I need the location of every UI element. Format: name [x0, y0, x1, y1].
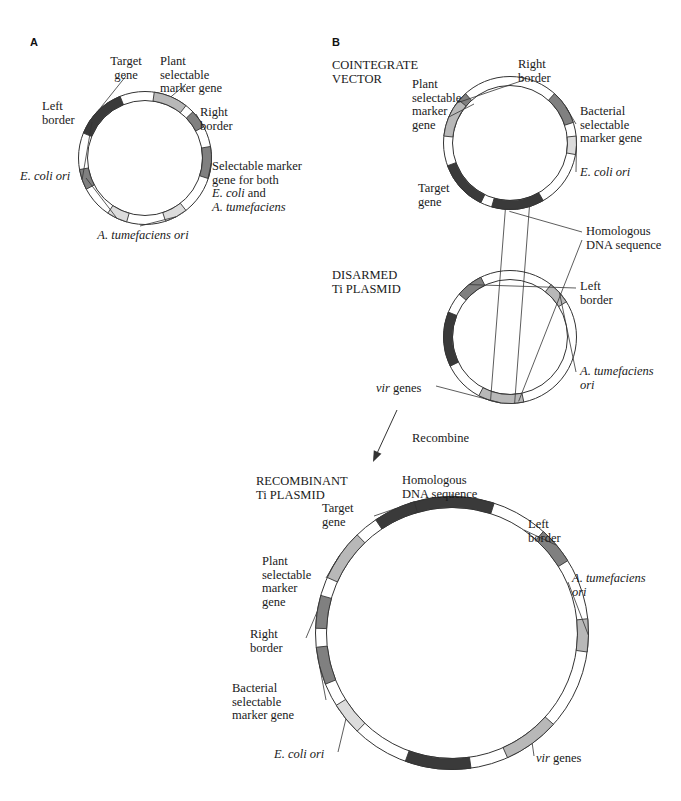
label-right-border: Rightborder — [518, 58, 574, 85]
label-bacterial-selectable-marker-gene: Bacterialselectablemarker gene — [580, 105, 670, 146]
label-right-border: Rightborder — [250, 628, 304, 655]
label-left-border: Leftborder — [580, 280, 632, 307]
label-left-border: Leftborder — [528, 518, 580, 545]
label-vir-genes: vir genes — [376, 382, 434, 396]
label-recombine: Recombine — [412, 432, 492, 446]
label-target-gene: Targetgene — [322, 502, 374, 529]
label-e-coli-ori: E. coli ori — [580, 166, 642, 180]
label-plant-selectable-marker-gene: Plantselectablemarkergene — [412, 78, 474, 132]
disarmed-ti-plasmid-title: DISARMEDTi PLASMID — [332, 268, 401, 296]
recombinant-ti-plasmid-title: RECOMBINANTTi PLASMID — [256, 474, 348, 502]
label-target-gene: Targetgene — [96, 55, 156, 82]
label-e-coli-ori: E. coli ori — [274, 748, 336, 762]
label-bacterial-selectable-marker-gene: Bacterialselectablemarker gene — [232, 682, 324, 723]
label-plant-selectable-marker-gene: Plantselectablemarkergene — [262, 555, 324, 609]
cointegrate-vector-title: COINTEGRATEVECTOR — [332, 58, 418, 86]
label-homologous-dna-sequence-crossover: HomologousDNA sequence — [586, 225, 681, 252]
figure-text-layer: TargetgenePlantselectablemarker geneRigh… — [0, 0, 681, 801]
label-vir-genes: vir genes — [536, 752, 594, 766]
label-target-gene: Targetgene — [418, 182, 470, 209]
label-a-tumefaciens-ori: A. tumefaciensori — [572, 572, 664, 599]
label-a-tumefaciens-ori: A. tumefaciensori — [580, 365, 668, 392]
label-selectable-marker-both: Selectable markergene for bothE. coli an… — [212, 160, 332, 214]
label-right-border: Rightborder — [200, 106, 252, 133]
label-homologous-dna-sequence: HomologousDNA sequence — [402, 474, 502, 501]
label-plant-selectable-marker-gene: Plantselectablemarker gene — [160, 55, 246, 96]
label-left-border: Leftborder — [42, 100, 90, 127]
label-a-tumefaciens-ori: A. tumefaciens ori — [84, 229, 202, 243]
label-e-coli-ori: E. coli ori — [20, 170, 82, 184]
